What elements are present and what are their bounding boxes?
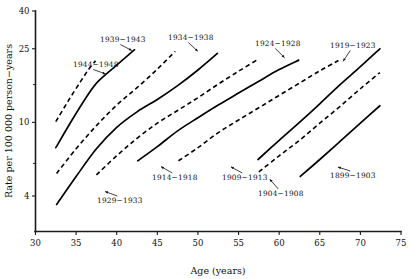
annotation-label: 1939−1943 [100, 35, 146, 44]
y-tick-label-25: 25 [19, 44, 30, 54]
annotation-label: 1919−1923 [330, 41, 376, 50]
x-tick-label-50: 50 [193, 238, 204, 248]
x-tick-label-45: 45 [152, 238, 163, 248]
x-tick-label-55: 55 [233, 238, 244, 248]
annotation-label: 1929−1933 [97, 196, 143, 205]
y-tick-label-10: 10 [19, 117, 30, 127]
annotation-label: 1944−1948 [73, 60, 119, 69]
x-tick-label-75: 75 [396, 238, 407, 248]
x-tick-label-70: 70 [355, 238, 366, 248]
x-tick-label-65: 65 [314, 238, 325, 248]
y-tick-label-40: 40 [19, 6, 30, 16]
y-axis-title: Rate per 100 000 person−years [3, 44, 14, 198]
annotation-label: 1904−1908 [258, 189, 304, 198]
annotation-label: 1899−1903 [330, 171, 376, 180]
annotation-label: 1924−1928 [255, 39, 301, 48]
annotation-label: 1909−1913 [222, 173, 268, 182]
x-tick-label-30: 30 [30, 238, 41, 248]
annotation-label: 1914−1918 [152, 173, 198, 182]
x-axis-title: Age (years) [189, 265, 245, 276]
cohort-rate-line-chart: 4102540 30354045505560657075 1944−194819… [0, 0, 409, 279]
x-tick-label-35: 35 [71, 238, 82, 248]
y-tick-label-4: 4 [24, 191, 29, 201]
annotation-label: 1934−1938 [168, 33, 214, 42]
x-tick-label-40: 40 [111, 238, 122, 248]
chart-container: 4102540 30354045505560657075 1944−194819… [0, 0, 409, 279]
x-tick-label-60: 60 [274, 238, 285, 248]
